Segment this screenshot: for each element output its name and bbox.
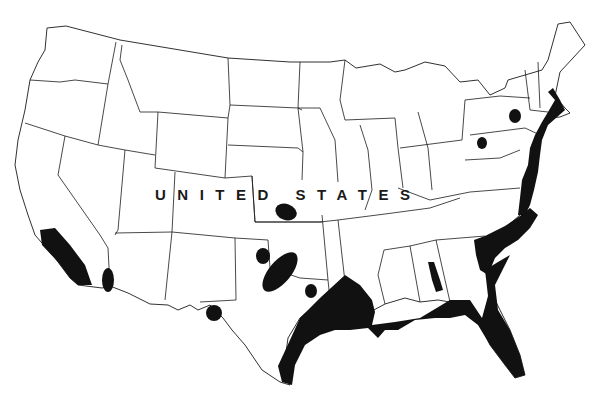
lower-colorado-river [102, 268, 114, 292]
country-label: UNITED STATES [155, 186, 465, 203]
west-texas-el-paso [206, 305, 222, 321]
western-oklahoma [256, 248, 270, 264]
eastern-new-york [509, 109, 521, 123]
north-central-texas [305, 284, 317, 298]
western-pennsylvania [477, 137, 487, 149]
